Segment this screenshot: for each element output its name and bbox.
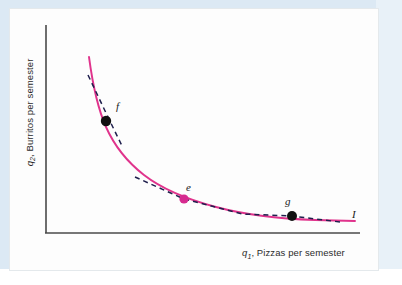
indifference-curve-svg	[10, 9, 378, 270]
x-axis-title: q1, Pizzas per semester	[242, 247, 345, 260]
point-label-f: f	[116, 100, 119, 112]
matte-right-band	[376, 0, 402, 285]
figure-panel: f e g I q1, Pizzas per semester q2, Burr…	[10, 9, 378, 270]
y-axis-title-text: , Burritos per semester	[24, 59, 35, 157]
figure-root: f e g I q1, Pizzas per semester q2, Burr…	[0, 0, 402, 285]
chord-f-to-g	[135, 177, 340, 222]
curve-label-I: I	[352, 208, 356, 220]
x-axis-title-text: , Pizzas per semester	[251, 247, 344, 258]
indifference-curve	[89, 57, 355, 221]
y-axis-title: q2, Burritos per semester	[24, 32, 37, 192]
matte-bottom-band	[0, 269, 402, 285]
y-axis-variable: q	[24, 161, 35, 166]
point-label-e: e	[186, 181, 191, 193]
plot-area: f e g I q1, Pizzas per semester q2, Burr…	[10, 9, 378, 270]
y-axis-variable-subscript: 2	[29, 157, 36, 161]
point-g-marker	[287, 211, 297, 221]
point-label-g: g	[285, 195, 291, 207]
point-e-marker	[179, 194, 188, 203]
point-f-marker	[101, 116, 111, 126]
